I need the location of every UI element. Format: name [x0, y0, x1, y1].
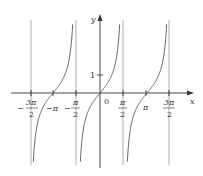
y-tick-label-1: 1 — [90, 71, 95, 80]
x-tick-neg-pi-2-den: 2 — [73, 110, 78, 119]
x-tick-3pi-2-num: 3π — [164, 98, 175, 107]
y-axis-arrow-icon — [98, 14, 103, 21]
x-tick-neg-pi-2-num: π — [72, 98, 79, 107]
axes — [11, 14, 194, 168]
x-tick-pi: π — [142, 103, 149, 112]
x-tick-pi-2-den: 2 — [120, 110, 125, 119]
x-tick-neg-3pi-2-den: 2 — [29, 110, 34, 119]
x-tick-neg-3pi-2-num: 3π — [26, 98, 37, 107]
x-axis-label: x — [190, 97, 195, 106]
x-axis-arrow-icon — [187, 91, 194, 96]
x-tick-pi-2-num: π — [119, 98, 126, 107]
x-tick-neg-3pi-2-minus: − — [17, 104, 24, 113]
x-tick-neg-pi: −π — [46, 104, 59, 113]
x-tick-3pi-2-den: 2 — [167, 110, 172, 119]
tan-graph: y x 1 0 − 3π 2 −π − π 2 π 2 π 3π 2 — [0, 0, 203, 176]
x-tick-neg-pi-2-minus: − — [64, 104, 71, 113]
origin-label: 0 — [104, 97, 109, 106]
y-axis-label: y — [90, 15, 96, 24]
